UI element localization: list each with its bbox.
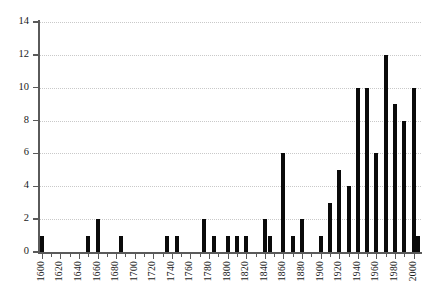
bar <box>86 236 90 252</box>
x-axis-minor-tick <box>330 253 331 257</box>
y-axis-tick-label: 2 <box>3 213 29 224</box>
x-axis-tick-label: 1840 <box>260 261 270 281</box>
x-axis-tick-label: 1940 <box>353 261 363 281</box>
x-axis-minor-tick <box>404 253 405 257</box>
x-axis-tick <box>172 253 173 259</box>
x-axis-tick-label: 1620 <box>55 261 65 281</box>
x-axis-tick-label: 1700 <box>130 261 140 281</box>
x-axis-minor-tick <box>237 253 238 257</box>
x-axis-tick <box>339 253 340 259</box>
y-axis-tick-label: 14 <box>3 16 29 27</box>
x-axis-tick <box>60 253 61 259</box>
bar <box>337 170 341 252</box>
y-axis-tick-label: 6 <box>3 147 29 158</box>
x-axis-minor-tick <box>386 253 387 257</box>
bar <box>165 236 169 252</box>
y-axis-tick <box>33 251 39 253</box>
y-axis-tick-label: 12 <box>3 49 29 60</box>
x-axis-tick-label: 1880 <box>297 261 307 281</box>
bar-chart: 0246810121416001620164016601680170017201… <box>0 0 431 293</box>
bar <box>281 153 285 252</box>
x-axis-tick <box>228 253 229 259</box>
gridline <box>39 153 421 154</box>
x-axis-tick-label: 1640 <box>74 261 84 281</box>
x-axis-tick <box>321 253 322 259</box>
bar <box>226 236 230 252</box>
x-axis-minor-tick <box>293 253 294 257</box>
x-axis-minor-tick <box>163 253 164 257</box>
y-axis-tick <box>33 120 39 122</box>
bar <box>402 121 406 252</box>
x-axis-tick-label: 1780 <box>204 261 214 281</box>
bar <box>412 88 416 252</box>
x-axis-tick-label: 1660 <box>93 261 103 281</box>
bar <box>347 186 351 252</box>
x-axis-tick <box>414 253 415 259</box>
x-axis-tick <box>79 253 80 259</box>
x-axis-minor-tick <box>70 253 71 257</box>
x-axis-tick-label: 1680 <box>111 261 121 281</box>
x-axis-tick <box>395 253 396 259</box>
x-axis-tick <box>209 253 210 259</box>
bar <box>384 55 388 252</box>
bar <box>365 88 369 252</box>
bar <box>175 236 179 252</box>
x-axis-tick-label: 1860 <box>278 261 288 281</box>
x-axis-tick-label: 1720 <box>148 261 158 281</box>
bar <box>268 236 272 252</box>
bar <box>291 236 295 252</box>
x-axis-tick <box>190 253 191 259</box>
x-axis-tick-label: 1920 <box>334 261 344 281</box>
bar <box>212 236 216 252</box>
x-axis-minor-tick <box>51 253 52 257</box>
x-axis-tick <box>265 253 266 259</box>
x-axis-minor-tick <box>256 253 257 257</box>
x-axis-tick-label: 1740 <box>167 261 177 281</box>
y-axis-tick <box>33 21 39 23</box>
bar <box>356 88 360 252</box>
x-axis-tick <box>283 253 284 259</box>
x-axis-minor-tick <box>144 253 145 257</box>
x-axis-tick-label: 2000 <box>409 261 419 281</box>
x-axis-minor-tick <box>274 253 275 257</box>
gridline <box>39 22 421 23</box>
x-axis-tick <box>116 253 117 259</box>
x-axis-tick <box>42 253 43 259</box>
bar <box>119 236 123 252</box>
bar <box>244 236 248 252</box>
bar <box>393 104 397 252</box>
y-axis-tick <box>33 218 39 220</box>
bar <box>319 236 323 252</box>
gridline <box>39 186 421 187</box>
x-axis-minor-tick <box>349 253 350 257</box>
bar <box>374 153 378 252</box>
gridline <box>39 88 421 89</box>
bar <box>202 219 206 252</box>
x-axis-minor-tick <box>88 253 89 257</box>
y-axis-tick <box>33 186 39 188</box>
x-axis-tick <box>302 253 303 259</box>
x-axis-minor-tick <box>367 253 368 257</box>
gridline <box>39 55 421 56</box>
x-axis-tick <box>246 253 247 259</box>
bar <box>40 236 44 252</box>
x-axis-tick-label: 1980 <box>390 261 400 281</box>
x-axis-tick <box>98 253 99 259</box>
x-axis-minor-tick <box>125 253 126 257</box>
bar <box>263 219 267 252</box>
x-axis-minor-tick <box>181 253 182 257</box>
plot-area <box>39 22 421 252</box>
bar <box>96 219 100 252</box>
bar <box>328 203 332 252</box>
x-axis-tick <box>358 253 359 259</box>
y-axis-tick-label: 8 <box>3 115 29 126</box>
y-axis-tick <box>33 87 39 89</box>
x-axis-minor-tick <box>218 253 219 257</box>
bar <box>416 236 420 252</box>
x-axis-line <box>38 252 422 254</box>
x-axis-tick-label: 1800 <box>223 261 233 281</box>
bar <box>300 219 304 252</box>
x-axis-tick <box>135 253 136 259</box>
x-axis-tick-label: 1960 <box>371 261 381 281</box>
y-axis-tick <box>33 54 39 56</box>
